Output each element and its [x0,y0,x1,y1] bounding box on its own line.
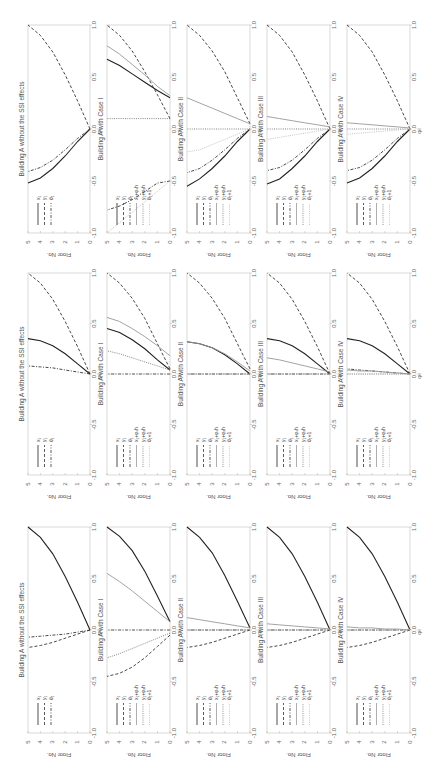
series-dashed [107,635,170,676]
floor-tick-label: 5 [25,482,31,486]
legend-label: x₁+φₓh [293,685,299,700]
floor-tick-label: 2 [221,240,227,244]
floor-tick-label: 5 [25,240,31,244]
series-solid [28,129,90,183]
legend-label: y₁ [120,438,126,443]
legend-label: x₁ [274,438,280,443]
floor-tick-label: 0 [167,482,173,486]
legend-label: θ₁ [287,195,293,200]
floor-tick-label: 5 [104,240,110,244]
phi-tick-label: -0.5 [411,419,417,430]
series-dotted-light [187,129,250,152]
panel-title: Building A with Case II [177,97,185,162]
floor-tick-label: 2 [301,482,307,486]
floor-tick-label: 5 [264,740,270,744]
floor-tick-label: 4 [196,740,202,744]
series-dashed [267,25,330,129]
legend-label: θ₁ [48,437,54,442]
legend-label: y₁+φᵧh [380,185,386,200]
subplot-2-5: -1.0-0.50.00.51.0φi012345Floor No.Buildi… [337,268,422,500]
legend-label: θ₁ [127,437,133,442]
floor-tick-label: 3 [129,482,135,486]
legend-label: θ₁+1 [226,190,232,200]
legend-label: θ₁ [127,195,133,200]
phi-tick-label: 0.5 [411,319,417,328]
legend-label: θ₁+1 [306,190,312,200]
legend-label: θ₁ [367,195,373,200]
subplot-1-4: -1.0-0.50.00.51.0φi012345Floor No.Buildi… [257,20,342,258]
floor-tick-label: 5 [104,482,110,486]
phi-tick-label: -1.0 [411,469,417,480]
floor-tick-label: 5 [344,240,350,244]
panel-title: Building A with Case II [177,598,185,663]
phi-tick-label: 0.5 [91,574,97,583]
series-dashed [187,273,250,369]
floor-tick-label: 1 [234,482,240,486]
floor-tick-label: 0 [167,240,173,244]
floor-tick-label: 0 [407,740,413,744]
phi-tick-label: 1.0 [251,20,257,29]
floor-tick-label: 1 [74,740,80,744]
panel-title: Building A with Case IV [337,95,345,163]
floor-axis-label: Floor No. [366,752,391,758]
subplot-1-2: -1.0-0.50.00.51.0φi012345Floor No.Buildi… [97,20,182,258]
floor-axis-label: Floor No. [206,752,231,758]
axes-frame [28,273,90,475]
legend-label: θ₁+1 [386,690,392,700]
subplot-1-1: -1.0-0.50.00.51.0φi012345Floor No.Buildi… [18,20,102,258]
floor-axis-label: Floor No. [126,252,151,258]
legend-label: y₁ [200,696,206,701]
series-dotted [107,633,170,658]
series-solid-light [107,46,170,96]
legend-label: x₁ [274,196,280,201]
panel-title: Building A with Case III [257,597,265,663]
phi-tick-label: 0.5 [251,72,257,81]
series-solid-light [107,573,170,621]
mode-shape-figure: -1.0-0.50.00.51.0φi012345Floor No.Buildi… [0,0,444,772]
phi-tick-label: 1.0 [91,522,97,531]
subplot-2-2: -1.0-0.50.00.51.0φi012345Floor No.Buildi… [97,268,182,500]
phi-tick-label: -0.5 [251,676,257,687]
series-dashed [28,273,90,374]
phi-tick-label: -1.0 [411,227,417,238]
subplot-1-3: -1.0-0.50.00.51.0φi012345Floor No.Buildi… [177,20,262,258]
subplot-3-1: -1.0-0.50.00.51.0φi012345Floor No.Buildi… [18,522,102,758]
legend-label: x₁ [274,696,280,701]
phi-tick-label: -1.0 [171,727,177,738]
phi-tick-label: 1.0 [331,522,337,531]
series-solid [187,129,250,186]
floor-tick-label: 2 [62,740,68,744]
legend-label: x₁ [194,196,200,201]
legend-label: y₁+φᵧh [220,685,226,700]
phi-tick-label: 1.0 [171,522,177,531]
phi-tick-label: -1.0 [251,469,257,480]
floor-tick-label: 4 [116,482,122,486]
legend-label: y₁+φᵧh [140,427,146,442]
legend-label: θ₁+1 [146,190,152,200]
legend-label: x₁ [114,438,120,443]
legend-label: x₁+φₓh [133,685,139,700]
floor-tick-label: 3 [129,240,135,244]
legend-label: θ₁ [48,195,54,200]
floor-tick-label: 4 [116,740,122,744]
floor-tick-label: 1 [74,482,80,486]
floor-axis-label: Floor No. [126,752,151,758]
phi-tick-label: -1.0 [331,727,337,738]
phi-tick-label: 1.0 [251,522,257,531]
phi-tick-label: 1.0 [411,522,417,531]
series-solid [107,59,170,98]
series-solid-light [187,98,250,124]
floor-axis-label: Floor No. [366,252,391,258]
floor-axis-label: Floor No. [46,252,71,258]
floor-axis-label: Floor No. [46,494,71,500]
series-solid-light [187,618,250,628]
floor-axis-label: Floor No. [206,494,231,500]
series-solid [187,527,250,628]
floor-tick-label: 3 [369,240,375,244]
legend-label: θ₁+1 [226,432,232,442]
legend-label: θ₁+1 [386,190,392,200]
floor-tick-label: 0 [247,740,253,744]
legend-label: x₁+φₓh [293,427,299,442]
legend-label: x₁ [354,696,360,701]
series-dashed [187,25,250,124]
